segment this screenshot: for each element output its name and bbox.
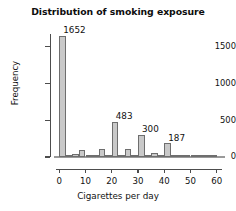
y-axis-title: Frequency <box>10 38 20 128</box>
data-label: 483 <box>116 111 133 121</box>
x-tick-label: 40 <box>152 176 176 186</box>
bar <box>125 149 132 157</box>
bar <box>79 150 86 157</box>
bar <box>197 155 204 157</box>
bar <box>112 122 119 158</box>
chart-title: Distribution of smoking exposure <box>0 6 236 17</box>
y-tick-mark <box>45 46 50 47</box>
data-label: 300 <box>142 124 159 134</box>
y-tick-mark <box>45 156 50 157</box>
bar <box>105 155 112 157</box>
bar <box>184 155 191 158</box>
bar <box>138 135 145 157</box>
x-tick-label: 0 <box>47 176 71 186</box>
bar <box>99 149 106 157</box>
bar <box>92 155 99 157</box>
x-tick-label: 30 <box>126 176 150 186</box>
bar <box>177 155 184 157</box>
bar <box>145 155 152 157</box>
x-tick-label: 20 <box>100 176 124 186</box>
x-tick-label: 10 <box>74 176 98 186</box>
x-axis-title: Cigarettes per day <box>0 191 236 201</box>
bar <box>59 36 66 157</box>
bar <box>171 155 178 157</box>
y-axis-spine <box>50 34 51 157</box>
x-tick-mark <box>85 169 86 174</box>
x-tick-mark <box>216 169 217 174</box>
chart-container: Distribution of smoking exposure Frequen… <box>0 0 236 211</box>
plot-area <box>54 32 222 157</box>
bar <box>131 155 138 157</box>
y-tick-mark <box>45 83 50 84</box>
x-tick-label: 60 <box>205 176 229 186</box>
bar <box>72 154 79 157</box>
data-label: 187 <box>168 133 185 143</box>
bar <box>66 155 73 157</box>
bar <box>204 155 211 157</box>
bar <box>210 155 217 157</box>
x-tick-mark <box>137 169 138 174</box>
x-tick-mark <box>190 169 191 174</box>
bar <box>151 153 158 157</box>
bar <box>158 155 165 157</box>
x-axis-spine <box>56 169 222 170</box>
y-tick-mark <box>45 120 50 121</box>
x-tick-label: 50 <box>179 176 203 186</box>
bar <box>118 155 125 157</box>
data-label: 1652 <box>63 25 85 35</box>
x-tick-mark <box>164 169 165 174</box>
x-tick-mark <box>59 169 60 174</box>
x-tick-mark <box>111 169 112 174</box>
